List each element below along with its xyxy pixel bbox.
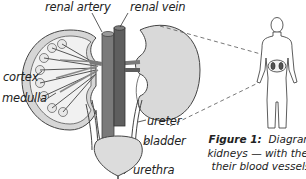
figure-label: Figure 1: bbox=[209, 133, 262, 145]
label-bladder: bladder bbox=[143, 134, 186, 148]
label-renal-artery: renal artery bbox=[45, 0, 110, 14]
urinary-system-diagram: renal artery renal vein cortex medulla u… bbox=[0, 0, 306, 179]
caption-text-1: Diagram to bbox=[268, 133, 306, 145]
caption-line-3: their blood vessels ar bbox=[198, 160, 306, 174]
human-body-figure bbox=[257, 18, 297, 129]
left-kidney-cross-section bbox=[22, 30, 98, 150]
label-renal-vein: renal vein bbox=[130, 0, 185, 14]
label-cortex: cortex bbox=[3, 70, 38, 84]
label-ureter: ureter bbox=[147, 114, 181, 128]
figure-caption: Figure 1: Diagram to kidneys — with the … bbox=[198, 133, 306, 174]
label-medulla: medulla bbox=[2, 91, 47, 105]
label-urethra: urethra bbox=[133, 163, 174, 177]
renal-vein-vessel bbox=[114, 26, 140, 126]
caption-line-1: Figure 1: Diagram to bbox=[198, 133, 306, 147]
right-kidney bbox=[136, 25, 201, 120]
caption-line-2: kidneys — with the gro bbox=[198, 147, 306, 161]
